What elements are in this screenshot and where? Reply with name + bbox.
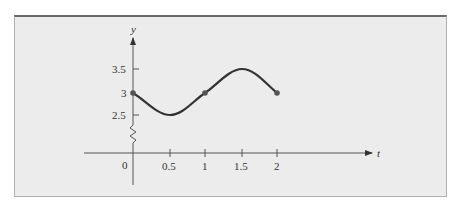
data-point xyxy=(274,90,280,96)
y-tick-3: 3 xyxy=(121,87,127,99)
data-point xyxy=(130,90,136,96)
y-tick-3-5: 3.5 xyxy=(112,63,126,75)
x-tick-1: 1 xyxy=(202,160,208,172)
y-axis-break xyxy=(130,125,136,143)
x-tick-2: 2 xyxy=(274,160,280,172)
data-point xyxy=(202,90,208,96)
x-axis-label: t xyxy=(377,147,381,159)
y-tick-2-5: 2.5 xyxy=(112,109,126,121)
y-axis-label: y xyxy=(130,23,136,35)
x-tick-1-5: 1.5 xyxy=(234,160,248,172)
origin-label: 0 xyxy=(122,159,128,171)
x-tick-0-5: 0.5 xyxy=(162,160,176,172)
chart-svg: y t 3.5 3 2.5 0 0.5 1 1.5 2 xyxy=(0,0,456,207)
